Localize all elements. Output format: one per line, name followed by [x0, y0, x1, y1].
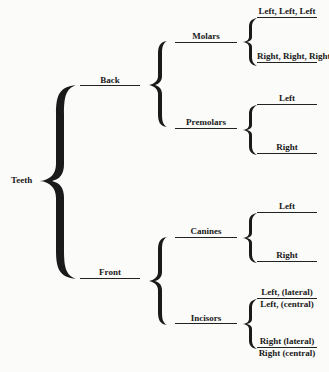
- node-canines-line: [175, 237, 237, 238]
- brace-teeth: [38, 84, 78, 280]
- node-back-line: [80, 85, 140, 86]
- node-premolars-line: [175, 128, 237, 129]
- node-molars-line: [175, 42, 237, 43]
- leaf-molars-left: Left, Left, Left: [257, 6, 317, 16]
- node-canines-label: Canines: [175, 226, 237, 236]
- root-label-teeth: Teeth: [11, 175, 32, 185]
- node-front-label: Front: [80, 267, 140, 277]
- node-back-label: Back: [80, 75, 140, 85]
- brace-front: [148, 236, 168, 326]
- node-molars-label: Molars: [175, 31, 237, 41]
- node-incisors-line: [175, 323, 237, 324]
- leaf-canines-right: Right: [257, 250, 317, 260]
- node-premolars-label: Premolars: [175, 117, 237, 127]
- brace-incisors: [240, 298, 258, 350]
- leaf-incisors-left-lateral: Left, (lateral): [257, 287, 317, 297]
- brace-molars: [240, 17, 258, 67]
- leaf-premolars-right-line: [257, 153, 317, 154]
- leaf-premolars-right: Right: [257, 142, 317, 152]
- brace-premolars: [240, 104, 258, 156]
- brace-back: [148, 40, 168, 128]
- brace-canines: [240, 212, 258, 264]
- node-front-line: [80, 278, 140, 279]
- leaf-incisors-left-central: Left, (central): [257, 299, 317, 309]
- leaf-molars-right: Right, Right, Right: [257, 51, 321, 61]
- node-incisors-label: Incisors: [175, 313, 237, 323]
- leaf-canines-right-line: [257, 261, 317, 262]
- leaf-premolars-left: Left: [257, 93, 317, 103]
- leaf-canines-left: Left: [257, 201, 317, 211]
- leaf-incisors-right-lateral: Right (lateral): [257, 336, 317, 346]
- leaf-premolars-left-line: [257, 104, 317, 105]
- leaf-molars-left-line: [257, 17, 317, 18]
- leaf-incisors-right-central: Right (central): [257, 348, 317, 358]
- leaf-canines-left-line: [257, 212, 317, 213]
- leaf-molars-right-line: [257, 62, 317, 63]
